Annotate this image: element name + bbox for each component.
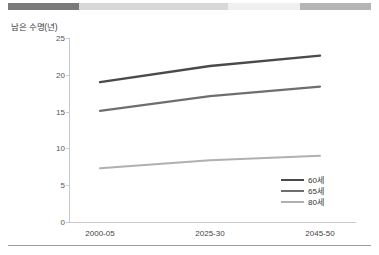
legend-item: 60세 [281,174,324,185]
chart-legend: 60세65세80세 [281,174,324,207]
series-lines [0,0,379,255]
plot-area: 0510152025 2000-052025-302045-50 [0,0,379,255]
legend-label: 80세 [308,196,324,207]
legend-item: 80세 [281,196,324,207]
series-line [100,56,320,83]
footer-divider [8,245,371,246]
legend-swatch-line [281,201,304,203]
series-line [100,87,320,111]
line-chart-figure: 남은 수명(년) 0510152025 2000-052025-302045-5… [0,0,379,255]
legend-swatch-line [281,179,304,181]
legend-item: 65세 [281,185,324,196]
legend-swatch-line [281,190,304,192]
legend-label: 65세 [308,185,324,196]
series-line [100,156,320,169]
legend-label: 60세 [308,174,324,185]
